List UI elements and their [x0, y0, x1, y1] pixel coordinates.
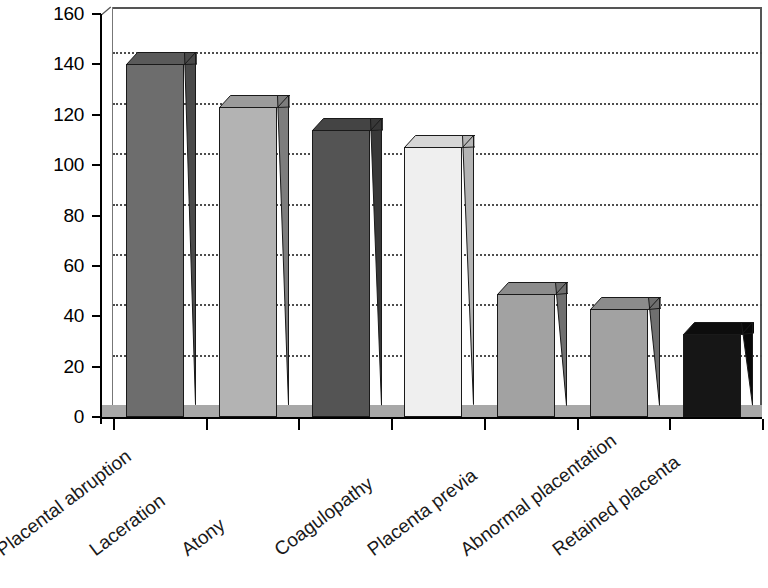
x-axis-tick	[206, 419, 208, 430]
bar-side-face	[648, 297, 661, 419]
bar-front-face	[219, 107, 277, 417]
x-axis-tick	[762, 419, 764, 430]
bar	[404, 135, 473, 417]
bar	[219, 95, 288, 417]
bar-side-face	[370, 118, 383, 419]
y-axis-tick	[92, 114, 101, 116]
bar-front-face	[404, 147, 462, 417]
y-axis-tick	[92, 416, 101, 418]
bar-series	[0, 0, 768, 588]
y-axis-tick	[92, 215, 101, 217]
bar-front-face	[683, 334, 741, 417]
bar-side-face	[741, 322, 754, 419]
bar	[497, 282, 566, 417]
bar-front-face	[126, 64, 184, 417]
bar	[312, 118, 381, 417]
y-axis-tick	[92, 366, 101, 368]
bar-side-face	[277, 95, 290, 419]
x-axis-tick	[391, 419, 393, 430]
y-axis-tick	[92, 13, 101, 15]
bar-side-face	[555, 282, 568, 419]
bar-chart: 020406080100120140160 Placental abruptio…	[0, 0, 768, 588]
y-axis-tick	[92, 265, 101, 267]
bar	[683, 322, 752, 417]
x-axis-tick	[298, 419, 300, 430]
bar-front-face	[497, 294, 555, 417]
bar	[590, 297, 659, 417]
bar-front-face	[312, 130, 370, 417]
bar-side-face	[184, 52, 197, 419]
bar-side-face	[462, 135, 475, 419]
bar	[126, 52, 195, 417]
x-axis-tick	[484, 419, 486, 430]
x-axis-tick	[577, 419, 579, 430]
x-axis-tick	[113, 419, 115, 430]
y-axis-tick	[92, 164, 101, 166]
y-axis-tick	[92, 315, 101, 317]
x-axis-tick	[669, 419, 671, 430]
y-axis-tick	[92, 63, 101, 65]
bar-front-face	[590, 309, 648, 417]
